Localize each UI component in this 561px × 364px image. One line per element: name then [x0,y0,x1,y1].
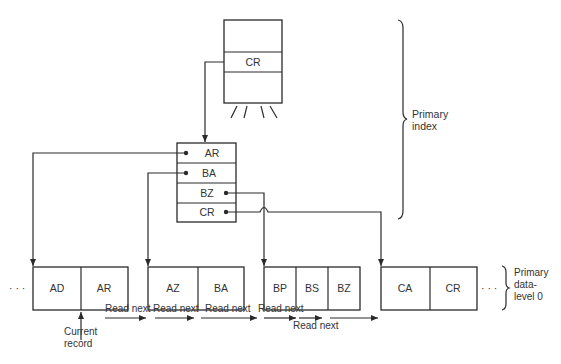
record-ca: CA [398,282,413,294]
record-az: AZ [166,282,180,294]
record-ad: AD [50,282,65,294]
primary-data-brace: Primary data- level 0 [502,266,548,310]
top-index-block: CR [224,20,282,118]
record-ar: AR [97,282,112,294]
record-bz: BZ [337,282,351,294]
read-next-label-2: Read next [153,303,199,314]
record-bs: BS [305,282,319,294]
primary-index-label-line2: index [412,120,438,132]
top-pointer-arrow [205,62,224,142]
current-record-label-line2: record [64,338,92,349]
index-entry-bz: BZ [200,187,214,199]
record-bp: BP [273,282,287,294]
read-next-label-4: Read next [258,303,304,314]
primary-data-label-line3: level 0 [514,291,543,302]
index-block: AR BA BZ CR [177,143,236,222]
ellipsis-left: · · · [9,282,25,294]
record-cr: CR [445,282,461,294]
index-entry-cr: CR [199,206,215,218]
primary-data-label-line2: data- [514,279,537,290]
read-next-label-3: Read next [205,303,251,314]
primary-index-label-line1: Primary [412,108,449,120]
top-index-entry-cr: CR [245,56,261,68]
index-entry-ba: BA [202,167,216,179]
ellipsis-right: · · · [481,282,497,294]
data-block-4: CA CR [381,267,477,310]
pointer-cr [226,208,381,267]
index-entry-ar: AR [205,147,220,159]
record-ba: BA [214,282,228,294]
index-structure-diagram: CR AR BA BZ CR Primary index · · · A [0,0,561,364]
read-next-label-5: Read next [293,320,339,331]
primary-index-brace: Primary index [398,20,449,219]
primary-data-label-line1: Primary [514,267,548,278]
current-record-label-line1: Current [64,326,98,337]
current-record-pointer: Current record [64,312,98,349]
read-next-label-1: Read next [105,303,151,314]
pointer-ar [33,153,186,266]
